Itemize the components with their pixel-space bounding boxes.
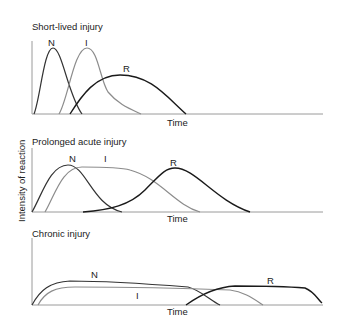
panel-title: Short-lived injury	[32, 21, 103, 32]
panel-title: Prolonged acute injury	[32, 136, 127, 147]
curve-label-r: R	[170, 157, 177, 168]
curve-n	[34, 48, 82, 114]
panel-title: Chronic injury	[32, 228, 90, 239]
curve-label-r: R	[267, 275, 274, 286]
curve-i	[38, 287, 263, 305]
curve-label-n: N	[48, 37, 55, 48]
curve-n	[32, 165, 122, 212]
curve-label-i: I	[136, 290, 139, 301]
curve-i	[45, 167, 200, 212]
curve-label-r: R	[123, 63, 130, 74]
x-axis-label: Time	[167, 117, 188, 128]
curve-label-i: I	[85, 37, 88, 48]
panel-short-lived	[32, 41, 323, 114]
curve-label-i: I	[104, 153, 107, 164]
curve-label-n: N	[69, 153, 76, 164]
curve-label-n: N	[91, 269, 98, 280]
panel-chronic	[32, 238, 323, 305]
y-axis-label: Intensity of reaction	[16, 140, 27, 222]
x-axis-label: Time	[167, 306, 188, 317]
x-axis-label: Time	[167, 213, 188, 224]
